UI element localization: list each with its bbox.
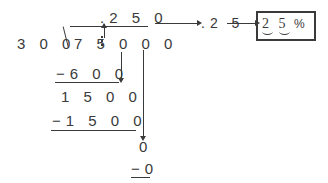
remainder-1: 1 5 0 0 bbox=[61, 89, 142, 104]
subtrahend-1: −6 0 0 bbox=[56, 66, 128, 81]
bring-down-arrow-2-icon bbox=[143, 50, 144, 136]
flow-arrow-1-icon bbox=[155, 23, 197, 24]
remainder-2: 0 bbox=[139, 139, 152, 154]
flow-arrow-2-icon bbox=[227, 23, 255, 24]
answer-digit-swash-2 bbox=[279, 28, 290, 35]
subtraction-rule-1 bbox=[55, 82, 119, 83]
subtraction-rule-3 bbox=[131, 177, 150, 178]
bring-down-arrow-1-icon bbox=[121, 52, 122, 78]
subtrahend-2: −1 5 0 0 bbox=[52, 113, 147, 128]
dividend-decimal-marker bbox=[101, 36, 103, 47]
decimal-carry-up-arrow-icon bbox=[104, 24, 105, 38]
dividend: 7 5 0 0 0 bbox=[74, 36, 177, 51]
subtrahend-3: −0 bbox=[131, 161, 158, 176]
percent-symbol: % bbox=[294, 18, 305, 30]
subtraction-rule-2 bbox=[51, 130, 136, 131]
division-bracket-vinculum bbox=[70, 26, 148, 27]
answer-digit-swash-1 bbox=[262, 28, 273, 35]
